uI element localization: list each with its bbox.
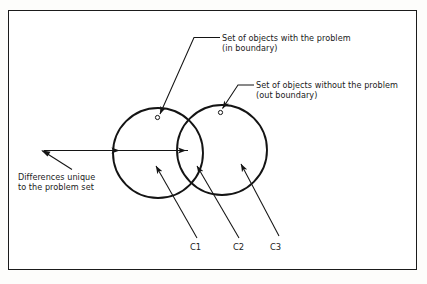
right-set-circle — [177, 105, 267, 195]
region-label-c1: C1 — [190, 242, 201, 252]
leader-line-c1 — [156, 166, 197, 238]
left-circle-boundary-marker — [155, 115, 159, 119]
annotation-in-boundary-line2: (in boundary) — [222, 43, 351, 53]
right-circle-boundary-marker — [218, 110, 222, 114]
annotation-out-boundary-line2: (out boundary) — [256, 90, 398, 100]
region-label-c3: C3 — [270, 242, 281, 252]
leader-line-c2 — [197, 166, 239, 238]
annotation-differences-line1: Differences unique — [18, 172, 95, 182]
annotation-out-boundary-line1: Set of objects without the problem — [256, 80, 398, 90]
venn-diagram-svg — [0, 0, 427, 284]
annotation-in-boundary: Set of objects with the problem (in boun… — [222, 33, 351, 53]
annotation-in-boundary-line1: Set of objects with the problem — [222, 33, 351, 43]
annotation-differences-line2: to the problem set — [18, 182, 95, 192]
annotation-differences: Differences unique to the problem set — [18, 172, 95, 192]
figure-screenshot: Set of objects with the problem (in boun… — [0, 0, 427, 284]
region-label-c2: C2 — [233, 242, 244, 252]
left-set-circle — [113, 108, 203, 198]
annotation-out-boundary: Set of objects without the problem (out … — [256, 80, 398, 100]
leader-line-in-boundary — [160, 38, 220, 115]
leader-arrowhead-differences — [41, 150, 50, 156]
